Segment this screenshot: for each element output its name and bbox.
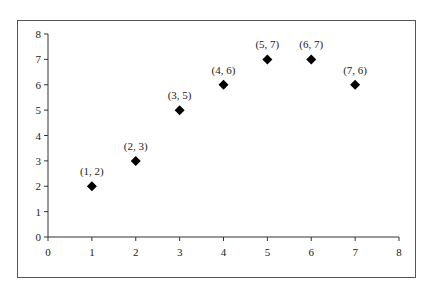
x-tick-label: 2	[133, 246, 139, 258]
x-tick-label: 1	[89, 246, 95, 258]
y-tick-label: 0	[36, 231, 42, 243]
x-tick-label: 7	[352, 246, 358, 258]
data-points: (1, 2)(2, 3)(3, 5)(4, 6)(5, 7)(6, 7)(7, …	[80, 38, 367, 191]
x-tick-label: 8	[396, 246, 402, 258]
diamond-marker	[350, 80, 360, 90]
axes: 012345678012345678	[36, 28, 403, 258]
y-tick-label: 3	[36, 155, 42, 167]
y-tick-label: 1	[36, 206, 42, 218]
x-tick-label: 3	[177, 246, 183, 258]
point-label: (7, 6)	[343, 64, 367, 77]
diamond-marker	[87, 181, 97, 191]
diamond-marker	[306, 54, 316, 64]
scatter-chart: 012345678012345678 (1, 2)(2, 3)(3, 5)(4,…	[0, 0, 434, 293]
point-label: (4, 6)	[212, 64, 236, 77]
x-tick-label: 5	[265, 246, 271, 258]
x-tick-label: 6	[309, 246, 315, 258]
y-tick-label: 6	[36, 79, 42, 91]
y-tick-label: 7	[36, 53, 42, 65]
y-tick-label: 4	[36, 130, 42, 142]
diamond-marker	[131, 156, 141, 166]
x-tick-label: 0	[45, 246, 51, 258]
y-tick-label: 2	[36, 180, 42, 192]
y-tick-label: 5	[36, 104, 42, 116]
diamond-marker	[175, 105, 185, 115]
point-label: (6, 7)	[299, 38, 323, 51]
point-label: (1, 2)	[80, 165, 104, 178]
point-label: (2, 3)	[124, 140, 148, 153]
x-tick-label: 4	[221, 246, 227, 258]
y-tick-label: 8	[36, 28, 42, 40]
diamond-marker	[262, 54, 272, 64]
point-label: (5, 7)	[255, 38, 279, 51]
diamond-marker	[219, 80, 229, 90]
point-label: (3, 5)	[168, 89, 192, 102]
